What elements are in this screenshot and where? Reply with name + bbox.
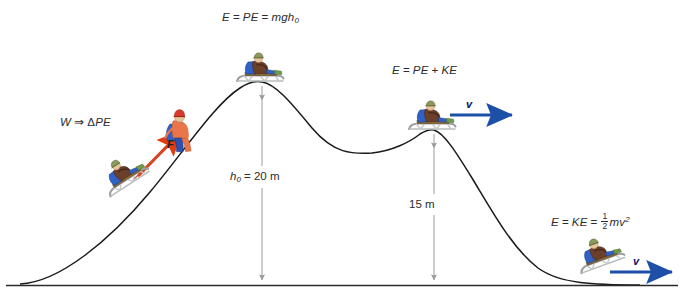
ke-symbol: KE [441,64,457,76]
delta-symbol: Δ [87,116,95,128]
label-kinetic-energy: E=KE=12mv2 [551,212,630,230]
label-work-energy: W⇒ΔPE [60,115,111,129]
equals-sign: = [403,64,410,76]
mgh-symbol: mgh [271,11,294,23]
pe-symbol: PE [95,116,111,128]
energy-symbol: E [392,64,400,76]
pe-symbol: PE [413,64,429,76]
hill-scene-svg [0,0,684,298]
v-exponent: 2 [625,215,630,224]
h-subscript: 0 [294,16,299,25]
energy-symbol: E [551,216,559,228]
energy-symbol: E [222,11,230,23]
sledder-bottom [572,231,625,273]
fraction-denominator: 2 [601,222,608,231]
dimension-label-h0: h0 = 20 m [230,170,280,184]
force-label: F [167,138,174,150]
sledder-pulled [95,147,149,196]
one-half-fraction: 12 [601,212,608,230]
sledder-hilltop [237,53,284,81]
physics-diagram-figure: W⇒ΔPE E=PE=mgh0 E=PE+KE E=KE=12mv2 F v v… [0,0,684,298]
equals-1: = [562,216,569,228]
implies-symbol: ⇒ [74,116,84,128]
dimension-label-h1: 15 m [409,198,435,210]
label-mid-energy: E=PE+KE [392,64,457,76]
velocity-label-bottom: v [633,255,639,267]
sledder-second-peak [409,101,456,129]
plus-sign: + [432,64,439,76]
equals-2: = [262,11,269,23]
equals-2: = [591,216,598,228]
equals-1: = [233,11,240,23]
work-symbol: W [60,116,71,128]
pe-symbol: PE [243,11,259,23]
velocity-label-mid: v [466,98,472,110]
mv-symbol: mv [609,216,625,228]
h0-value: = 20 m [241,170,280,182]
ke-symbol: KE [572,216,588,228]
label-top-energy: E=PE=mgh0 [222,11,299,25]
